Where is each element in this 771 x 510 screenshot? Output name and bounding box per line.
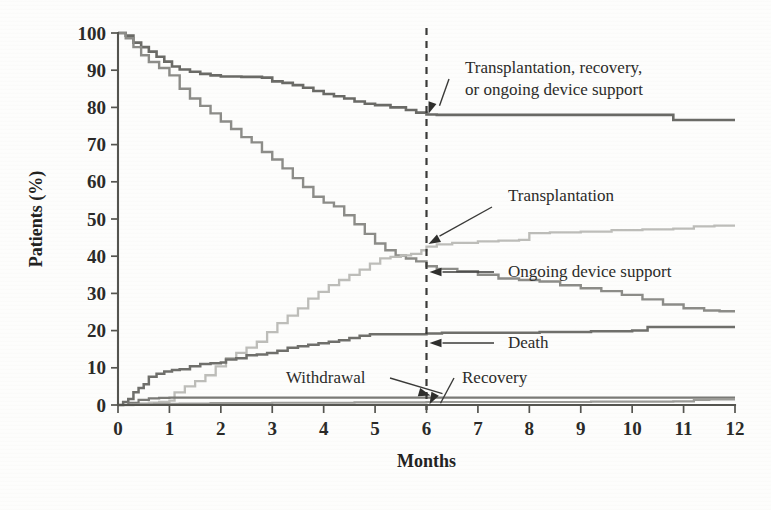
annotation-composite: Transplantation, recovery,or ongoing dev…	[425, 58, 644, 115]
y-tick-label: 20	[87, 320, 106, 341]
y-tick-label: 10	[87, 357, 106, 378]
tick-label-layer: 01020304050607080901000123456789101112	[78, 23, 745, 440]
x-tick-label: 9	[576, 418, 586, 439]
annotation-death: Death	[430, 333, 550, 352]
x-tick-label: 10	[623, 418, 642, 439]
x-tick-label: 5	[370, 418, 380, 439]
annotation-label-ongoing-device-support: Ongoing device support	[508, 262, 672, 281]
annotation-transplantation: Transplantation	[426, 186, 614, 248]
y-tick-label: 30	[87, 283, 106, 304]
annotation-layer: Transplantation, recovery,or ongoing dev…	[286, 58, 672, 406]
annotation-label-composite: Transplantation, recovery,	[465, 58, 642, 77]
x-tick-label: 11	[675, 418, 693, 439]
y-tick-label: 70	[87, 134, 106, 155]
y-tick-label: 40	[87, 246, 106, 267]
x-tick-label: 8	[525, 418, 535, 439]
annotation-label-transplantation: Transplantation	[508, 186, 615, 205]
y-tick-label: 90	[87, 60, 106, 81]
x-axis-title: Months	[397, 451, 456, 471]
x-tick-label: 0	[113, 418, 123, 439]
x-tick-label: 4	[319, 418, 329, 439]
annotation-recovery: Recovery	[426, 368, 528, 406]
annotation-label-composite: or ongoing device support	[465, 80, 643, 99]
annotation-withdrawal: Withdrawal	[286, 368, 443, 400]
y-tick-label: 60	[87, 171, 106, 192]
x-tick-label: 1	[165, 418, 175, 439]
annotation-label-death: Death	[508, 333, 549, 352]
figure-canvas: 01020304050607080901000123456789101112 T…	[0, 0, 771, 510]
y-axis-title: Patients (%)	[26, 171, 47, 267]
y-tick-label: 100	[78, 23, 107, 44]
x-tick-label: 6	[422, 418, 432, 439]
x-tick-label: 2	[216, 418, 226, 439]
x-tick-label: 3	[268, 418, 278, 439]
y-tick-label: 80	[87, 97, 106, 118]
x-tick-label: 12	[726, 418, 745, 439]
x-tick-label: 7	[473, 418, 483, 439]
y-tick-label: 0	[97, 395, 107, 416]
y-tick-label: 50	[87, 209, 106, 230]
chart-svg: 01020304050607080901000123456789101112 T…	[0, 0, 771, 510]
annotation-label-withdrawal: Withdrawal	[286, 368, 366, 387]
annotation-ongoing-device-support: Ongoing device support	[430, 262, 672, 281]
annotation-label-recovery: Recovery	[462, 368, 528, 387]
